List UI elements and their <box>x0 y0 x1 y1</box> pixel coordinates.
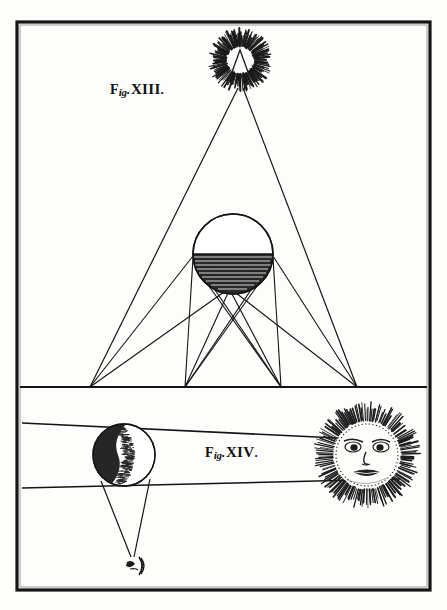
fig-xiii-caption-sub: ig <box>119 86 127 98</box>
fig-xiv-caption: Fig.XIV. <box>205 443 258 461</box>
fig-xiv-caption-word: F <box>205 445 214 460</box>
fig-xiii-caption-dot: . <box>126 82 130 97</box>
fig-xiv-caption-sub: ig <box>214 449 222 461</box>
fig-xiii-caption: Fig.XIII. <box>110 80 164 98</box>
paper-background <box>0 0 447 610</box>
fig-xiii-caption-numeral: XIII <box>131 81 161 97</box>
half-shaded-moon <box>93 424 155 486</box>
fig-xiv-caption-numeral: XIV <box>226 444 254 460</box>
fig-xiv-caption-trailing-dot: . <box>254 445 258 460</box>
fig-xiii-caption-trailing-dot: . <box>161 82 165 97</box>
fig-xiv-caption-dot: . <box>221 445 225 460</box>
shaded-sphere <box>193 214 274 294</box>
fig-xiii-caption-word: F <box>110 82 119 97</box>
plate-artwork <box>0 0 447 610</box>
engraving-plate: Fig.XIII. Fig.XIV. <box>0 0 447 610</box>
